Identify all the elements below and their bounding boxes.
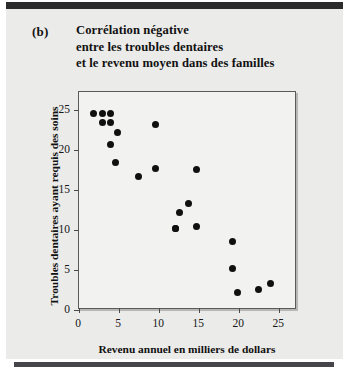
figure-title: Corrélation négative entre les troubles … [76, 22, 344, 72]
x-tick [199, 308, 200, 313]
plot-frame [78, 91, 296, 309]
data-point [152, 165, 159, 172]
x-tick-label: 20 [223, 317, 253, 329]
figure-panel: (b) Corrélation négative entre les troub… [6, 9, 343, 359]
top-rule [6, 2, 343, 9]
bottom-rule [14, 362, 334, 367]
data-point [99, 119, 106, 126]
data-point [112, 159, 119, 166]
x-tick [79, 308, 80, 313]
title-line-2: entre les troubles dentaires [76, 39, 344, 56]
data-point [193, 166, 200, 173]
data-point [193, 223, 200, 230]
title-line-1: Corrélation négative [76, 22, 344, 39]
x-tick [239, 308, 240, 313]
data-point [99, 110, 106, 117]
data-point [234, 289, 241, 296]
y-tick [74, 150, 79, 151]
data-point [267, 280, 274, 287]
y-tick [74, 190, 79, 191]
panel-label: (b) [32, 24, 49, 40]
x-tick-label: 10 [143, 317, 173, 329]
data-point [152, 121, 159, 128]
x-tick-label: 25 [263, 317, 293, 329]
x-tick [279, 308, 280, 313]
data-point [176, 209, 183, 216]
title-line-3: et le revenu moyen dans des familles [76, 55, 344, 72]
data-point [135, 173, 142, 180]
x-tick-label: 15 [183, 317, 213, 329]
data-point [114, 129, 121, 136]
x-tick [159, 308, 160, 313]
y-axis-title: Troubles dentaires ayant requis des soin… [48, 97, 60, 315]
data-point [107, 141, 114, 148]
data-point [229, 265, 236, 272]
x-tick-label: 5 [103, 317, 133, 329]
plot-area [79, 92, 295, 308]
data-point [229, 238, 236, 245]
data-point [107, 110, 114, 117]
data-point [172, 225, 179, 232]
data-point [90, 110, 97, 117]
x-tick [119, 308, 120, 313]
y-tick [74, 270, 79, 271]
x-axis-title: Revenu annuel en milliers de dollars [78, 343, 296, 355]
figure-page: (b) Corrélation négative entre les troub… [0, 0, 349, 379]
data-point [107, 119, 114, 126]
x-tick-label: 0 [63, 317, 93, 329]
data-point [185, 200, 192, 207]
data-point [255, 286, 262, 293]
y-tick [74, 230, 79, 231]
y-tick [74, 110, 79, 111]
